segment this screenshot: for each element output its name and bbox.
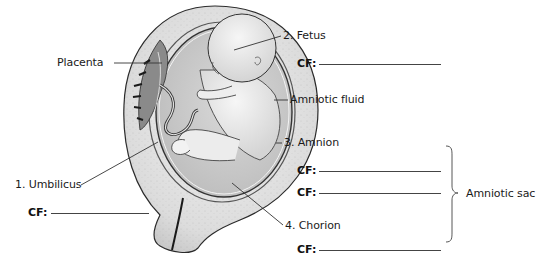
umbilicus-label: 1. Umbilicus <box>15 178 81 191</box>
chorion-cf-blank[interactable] <box>319 250 441 251</box>
chorion-label: 4. Chorion <box>285 219 341 232</box>
umbilicus-cf-prompt: CF: <box>28 206 47 219</box>
amnion-cf-blank-2[interactable] <box>319 193 441 194</box>
amnion-cf-blank-1[interactable] <box>319 171 441 172</box>
fetal-diagram: Placenta 2. Fetus CF: Amniotic fluid 3. … <box>0 0 540 271</box>
amniotic-sac-brace <box>446 146 458 242</box>
uterus-illustration <box>0 0 540 271</box>
fetus-cf-prompt: CF: <box>297 57 316 70</box>
fetus-label: 2. Fetus <box>283 29 326 42</box>
amnion-label: 3. Amnion <box>284 136 339 149</box>
amniotic-fluid-label: Amniotic fluid <box>290 93 364 106</box>
amnion-cf-prompt-2: CF: <box>297 186 316 199</box>
fetus-cf-blank[interactable] <box>319 64 441 65</box>
placenta-label: Placenta <box>57 56 103 69</box>
umbilicus-cf-blank[interactable] <box>51 213 149 214</box>
amnion-cf-prompt-1: CF: <box>297 164 316 177</box>
chorion-cf-prompt: CF: <box>297 243 316 256</box>
amniotic-sac-label: Amniotic sac <box>466 187 535 200</box>
